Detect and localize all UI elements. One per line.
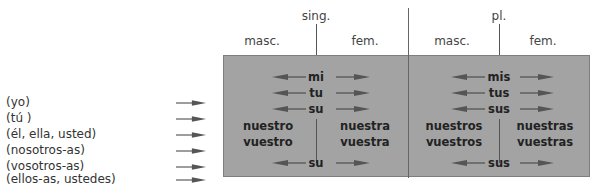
- sing-form-su-plural-owner: su: [308, 156, 323, 170]
- arrow-right-icon: [176, 163, 206, 171]
- singular-header: sing.: [302, 9, 331, 23]
- pl-fem-nuestras: nuestras: [517, 119, 574, 133]
- pl-fem-vuestras: vuestras: [517, 135, 573, 149]
- arrow-right-icon: [336, 73, 370, 81]
- sing-fem-vuestra: vuestra: [340, 135, 389, 149]
- singular-plural-divider: [408, 8, 409, 178]
- arrow-right-icon: [520, 89, 554, 97]
- pronoun-el-ella-usted: (él, ella, usted): [6, 127, 96, 141]
- arrow-left-icon: [272, 73, 306, 81]
- arrow-right-icon: [336, 159, 370, 167]
- plural-header: pl.: [492, 9, 507, 23]
- arrow-left-icon: [451, 159, 485, 167]
- pl-masc-vuestros: vuestros: [426, 135, 482, 149]
- arrow-right-icon: [176, 99, 206, 107]
- singular-fem-header: fem.: [351, 34, 378, 48]
- pronoun-tu: (tú ): [6, 111, 32, 125]
- arrow-left-icon: [272, 159, 306, 167]
- pl-masc-nuestros: nuestros: [426, 119, 483, 133]
- arrow-right-icon: [176, 131, 206, 139]
- sing-fem-nuestra: nuestra: [340, 119, 390, 133]
- pronoun-nosotros: (nosotros-as): [6, 143, 85, 157]
- arrow-right-icon: [176, 147, 206, 155]
- arrow-right-icon: [520, 105, 554, 113]
- arrow-right-icon: [336, 89, 370, 97]
- sing-form-su: su: [308, 102, 323, 116]
- pl-form-sus: sus: [488, 102, 510, 116]
- plural-fem-header: fem.: [529, 34, 556, 48]
- arrow-left-icon: [451, 73, 485, 81]
- arrow-left-icon: [451, 105, 485, 113]
- arrow-left-icon: [451, 89, 485, 97]
- singular-header-line: [316, 24, 317, 55]
- pl-form-mis: mis: [488, 70, 511, 84]
- pl-form-tus: tus: [489, 86, 510, 100]
- sing-masc-vuestro: vuestro: [243, 135, 292, 149]
- pronoun-ellos-ustedes: (ellos-as, ustedes): [6, 172, 116, 186]
- arrow-right-icon: [520, 159, 554, 167]
- arrow-right-icon: [520, 73, 554, 81]
- singular-masc-header: masc.: [244, 34, 280, 48]
- arrow-left-icon: [272, 89, 306, 97]
- sing-form-tu: tu: [309, 86, 323, 100]
- pronoun-vosotros: (vosotros-as): [6, 159, 84, 173]
- sing-masc-nuestro: nuestro: [243, 119, 293, 133]
- pl-form-sus-plural-owner: sus: [488, 156, 510, 170]
- plural-header-line: [499, 24, 500, 55]
- pronoun-yo: (yo): [6, 95, 30, 109]
- arrow-left-icon: [272, 105, 306, 113]
- plural-masc-header: masc.: [434, 34, 470, 48]
- sing-form-mi: mi: [308, 70, 324, 84]
- arrow-right-icon: [176, 176, 206, 184]
- arrow-right-icon: [176, 115, 206, 123]
- arrow-right-icon: [336, 105, 370, 113]
